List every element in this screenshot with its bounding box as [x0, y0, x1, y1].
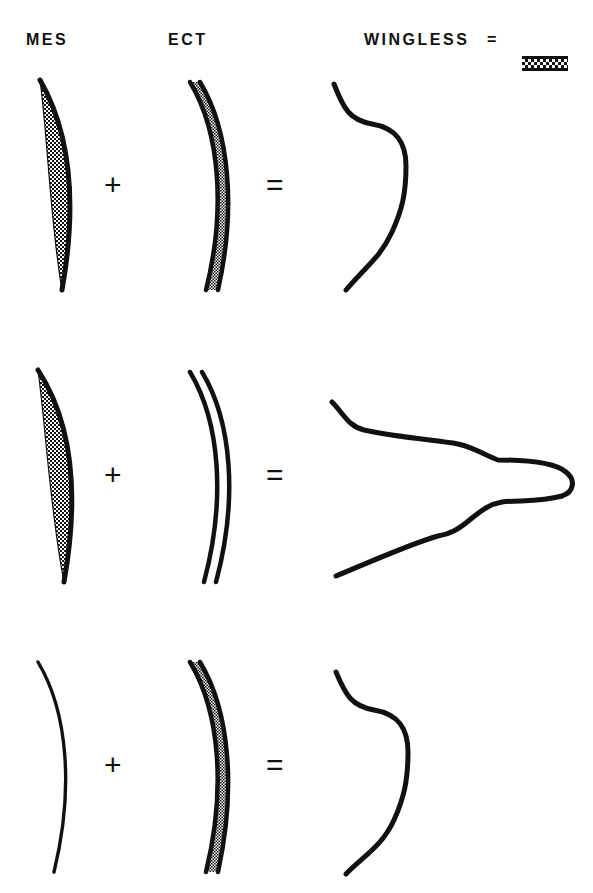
swatch-stipple-fill: [522, 59, 568, 68]
mesoderm-absent-shape: [18, 650, 108, 880]
ectoderm-normal-shape: [172, 360, 262, 590]
header-label-ect: ECT: [168, 30, 208, 50]
row-1-ectoderm-panel: [172, 70, 262, 300]
mesoderm-wingless-shape: [18, 360, 108, 590]
row-3-result-panel: [318, 650, 580, 880]
header-equals-sign: =: [487, 30, 496, 50]
result-wing-outgrowth-outline: [318, 360, 580, 590]
figure-root: MES ECT WINGLESS =: [0, 0, 593, 893]
row-2-plus-operator: +: [104, 460, 122, 490]
wingless-pattern-swatch-icon: [522, 56, 568, 71]
row-2-ectoderm-panel: [172, 360, 262, 590]
result-wingless-outline: [318, 650, 580, 880]
ectoderm-wingless-shape: [172, 650, 262, 880]
mesoderm-wingless-shape: [18, 70, 108, 300]
row-1-result-panel: [318, 70, 580, 300]
row-2-mesoderm-panel: [18, 360, 108, 590]
row-1-mesoderm-panel: [18, 70, 108, 300]
experiment-row-2: + =: [0, 360, 593, 590]
row-1-equals-operator: =: [266, 170, 284, 200]
row-2-result-panel: [318, 360, 580, 590]
row-3-equals-operator: =: [266, 750, 284, 780]
experiment-row-3: + =: [0, 650, 593, 880]
row-3-plus-operator: +: [104, 750, 122, 780]
header-label-mes: MES: [26, 30, 68, 50]
row-3-mesoderm-panel: [18, 650, 108, 880]
result-wingless-outline: [318, 70, 580, 300]
experiment-row-1: + =: [0, 70, 593, 300]
row-2-equals-operator: =: [266, 460, 284, 490]
row-3-ectoderm-panel: [172, 650, 262, 880]
ectoderm-wingless-shape: [172, 70, 262, 300]
header-label-wingless: WINGLESS: [364, 30, 469, 50]
figure-header: MES ECT WINGLESS =: [0, 26, 593, 54]
row-1-plus-operator: +: [104, 170, 122, 200]
